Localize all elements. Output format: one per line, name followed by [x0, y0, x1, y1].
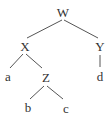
node-d: d — [97, 70, 104, 83]
node-w: W — [57, 6, 69, 19]
edge-w-y — [64, 20, 98, 38]
node-x: X — [20, 40, 29, 53]
tree-edges — [0, 0, 110, 119]
edge-z-c — [47, 86, 63, 99]
node-a: a — [5, 70, 11, 83]
node-y: Y — [95, 40, 104, 53]
edge-x-z — [26, 54, 42, 68]
node-z: Z — [42, 71, 50, 84]
edge-x-a — [10, 54, 23, 68]
node-b: b — [25, 101, 32, 114]
node-c: c — [63, 102, 69, 115]
edge-w-x — [27, 20, 62, 38]
edge-z-b — [30, 86, 44, 99]
tree-diagram: W X Y a Z d b c — [0, 0, 110, 119]
